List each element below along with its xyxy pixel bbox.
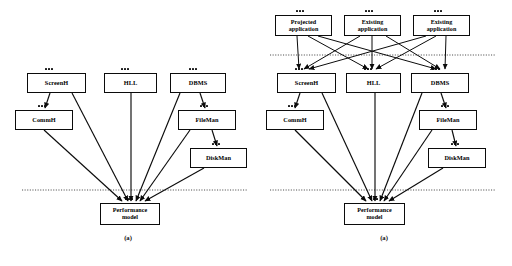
edge-diskman-perf bbox=[145, 168, 204, 201]
port-dot bbox=[370, 198, 372, 200]
ports-dbms-b bbox=[432, 68, 440, 70]
edge-screenh-perf bbox=[322, 93, 372, 201]
edge-existing1-dbms bbox=[386, 36, 440, 69]
port-dot bbox=[365, 10, 367, 12]
port-dot bbox=[121, 68, 123, 70]
node-projected-application[interactable]: Projected application bbox=[275, 15, 332, 36]
port-dot bbox=[44, 105, 46, 107]
node-fileman[interactable]: FileMan bbox=[178, 110, 236, 130]
port-dot bbox=[376, 198, 378, 200]
node-label: HLL bbox=[123, 79, 138, 86]
port-dot bbox=[38, 105, 40, 107]
ports-fileman-a bbox=[200, 105, 208, 107]
node-commh[interactable]: CommH bbox=[15, 110, 73, 130]
node-commh[interactable]: CommH bbox=[266, 110, 324, 130]
port-dot bbox=[435, 68, 437, 70]
ports-perf-model-b bbox=[370, 198, 378, 200]
edge-existing2-screenh bbox=[309, 36, 426, 69]
node-dbms[interactable]: DBMS bbox=[411, 73, 469, 93]
edge-existing2-hll bbox=[376, 36, 436, 69]
panel-a-caption: (a) bbox=[0, 234, 256, 241]
edge-screenh-perf bbox=[72, 93, 128, 201]
node-label: FileMan bbox=[435, 116, 460, 123]
edge-diskman-perf bbox=[389, 168, 443, 201]
port-dot bbox=[200, 105, 202, 107]
panel-b-edges bbox=[256, 0, 512, 266]
node-label: DBMS bbox=[430, 79, 450, 86]
port-dot bbox=[301, 68, 303, 70]
ports-dbms-a bbox=[189, 68, 197, 70]
port-dot bbox=[444, 105, 446, 107]
port-dot bbox=[51, 68, 53, 70]
node-performance-model[interactable]: Performance model bbox=[100, 203, 160, 225]
node-screenh[interactable]: ScreenH bbox=[27, 73, 86, 93]
port-dot bbox=[457, 143, 459, 145]
port-dot bbox=[195, 68, 197, 70]
port-dot bbox=[364, 68, 366, 70]
figure-root: ScreenH HLL DBMS CommH FileMan DiskMan P… bbox=[0, 0, 512, 266]
node-label: Performance model bbox=[356, 207, 392, 221]
node-label: HLL bbox=[366, 79, 381, 86]
ports-screenh-a bbox=[45, 68, 53, 70]
port-dot bbox=[48, 68, 50, 70]
port-dot bbox=[373, 198, 375, 200]
port-dot bbox=[45, 68, 47, 70]
node-hll[interactable]: HLL bbox=[346, 73, 401, 93]
port-dot bbox=[302, 10, 304, 12]
panel-a-edges bbox=[0, 0, 256, 266]
port-dot bbox=[212, 143, 214, 145]
port-dot bbox=[291, 105, 293, 107]
node-dbms[interactable]: DBMS bbox=[170, 73, 226, 93]
port-dot bbox=[41, 105, 43, 107]
edge-commh-perf bbox=[44, 130, 122, 201]
port-dot bbox=[440, 10, 442, 12]
ports-existing-app-2 bbox=[434, 10, 442, 12]
port-dot bbox=[437, 10, 439, 12]
node-label: Existing application bbox=[357, 19, 389, 33]
port-dot bbox=[124, 68, 126, 70]
port-dot bbox=[371, 10, 373, 12]
node-diskman[interactable]: DiskMan bbox=[428, 148, 486, 168]
port-dot bbox=[370, 68, 372, 70]
port-dot bbox=[367, 68, 369, 70]
node-screenh[interactable]: ScreenH bbox=[277, 73, 336, 93]
node-hll[interactable]: HLL bbox=[104, 73, 157, 93]
port-dot bbox=[434, 10, 436, 12]
node-performance-model[interactable]: Performance model bbox=[344, 203, 405, 225]
edge-existing2-dbms bbox=[445, 36, 446, 69]
ports-commh-a bbox=[38, 105, 46, 107]
port-dot bbox=[203, 105, 205, 107]
node-diskman[interactable]: DiskMan bbox=[190, 148, 247, 168]
port-dot bbox=[128, 198, 130, 200]
port-dot bbox=[218, 143, 220, 145]
ports-projected-app bbox=[296, 10, 304, 12]
ports-diskman-a bbox=[212, 143, 220, 145]
edge-existing1-screenh bbox=[304, 36, 360, 69]
panel-b-caption: (a) bbox=[256, 234, 512, 241]
panel-a: ScreenH HLL DBMS CommH FileMan DiskMan P… bbox=[0, 0, 256, 266]
panel-b: Projected application Existing applicati… bbox=[256, 0, 512, 266]
port-dot bbox=[206, 105, 208, 107]
port-dot bbox=[447, 105, 449, 107]
port-dot bbox=[441, 105, 443, 107]
edge-projected-hll bbox=[308, 36, 368, 69]
port-dot bbox=[131, 198, 133, 200]
port-dot bbox=[127, 68, 129, 70]
port-dot bbox=[189, 68, 191, 70]
node-fileman[interactable]: FileMan bbox=[419, 110, 477, 130]
node-existing-application-2[interactable]: Existing application bbox=[413, 15, 470, 36]
port-dot bbox=[368, 10, 370, 12]
port-dot bbox=[288, 105, 290, 107]
node-existing-application-1[interactable]: Existing application bbox=[344, 15, 401, 36]
node-label: ScreenH bbox=[44, 79, 69, 86]
ports-screenh-b bbox=[295, 68, 303, 70]
edge-projected-screenh bbox=[297, 36, 299, 69]
node-label: DiskMan bbox=[205, 154, 232, 161]
node-label: DiskMan bbox=[443, 154, 470, 161]
node-label: FileMan bbox=[194, 116, 219, 123]
port-dot bbox=[192, 68, 194, 70]
port-dot bbox=[298, 68, 300, 70]
ports-diskman-b bbox=[451, 143, 459, 145]
node-label: Projected application bbox=[288, 19, 320, 33]
port-dot bbox=[454, 143, 456, 145]
